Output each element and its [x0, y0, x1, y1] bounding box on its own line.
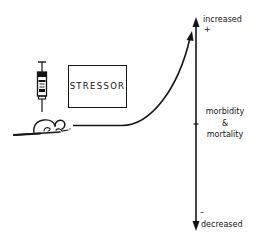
mouse-icon [14, 120, 71, 135]
axis-bottom-sign: – [200, 208, 204, 217]
axis-top-sign: + [204, 25, 211, 34]
stressor-box: STRESSOR [68, 65, 127, 108]
vertical-axis [193, 17, 200, 231]
stressor-label: STRESSOR [69, 81, 126, 91]
axis-middle-label-line3: mortality [200, 130, 250, 139]
syringe-icon [38, 62, 47, 112]
axis-middle-label-line1: morbidity [200, 107, 250, 116]
axis-bottom-label: decreased [201, 220, 243, 229]
axis-top-label: increased [203, 15, 242, 24]
stress-response-diagram: STRESSOR increased + morbidity & mortali… [0, 0, 255, 237]
axis-middle-label-line2: & [200, 119, 250, 128]
